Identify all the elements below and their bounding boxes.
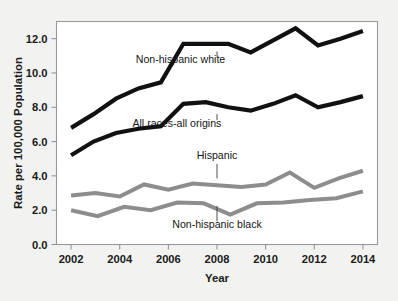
figure-container: 0.02.04.06.08.010.012.0 2002200420062008… bbox=[0, 0, 398, 301]
x-axis-tick-labels: 2002200420062008201020122014 bbox=[59, 253, 376, 265]
chart-canvas: 0.02.04.06.08.010.012.0 2002200420062008… bbox=[0, 0, 398, 301]
series-annotation-label: Hispanic bbox=[197, 149, 238, 161]
x-tick-label: 2012 bbox=[302, 253, 327, 265]
y-tick-label: 0.0 bbox=[32, 239, 48, 251]
y-tick-label: 12.0 bbox=[26, 33, 48, 45]
x-tick-label: 2002 bbox=[59, 253, 84, 265]
series-annotation-label: Non-hispanic white bbox=[136, 53, 226, 65]
x-axis-title: Year bbox=[205, 272, 230, 284]
y-axis-tick-marks bbox=[52, 39, 57, 245]
x-tick-label: 2014 bbox=[350, 253, 376, 265]
y-tick-label: 10.0 bbox=[26, 67, 48, 79]
x-axis-tick-marks bbox=[71, 245, 363, 250]
series-annotation-label: All races-all origins bbox=[132, 117, 221, 129]
y-tick-label: 6.0 bbox=[32, 136, 48, 148]
line-chart: 0.02.04.06.08.010.012.0 2002200420062008… bbox=[0, 0, 398, 301]
x-tick-label: 2010 bbox=[253, 253, 278, 265]
x-tick-label: 2004 bbox=[107, 253, 133, 265]
y-tick-label: 4.0 bbox=[32, 170, 48, 182]
x-tick-label: 2008 bbox=[205, 253, 230, 265]
y-tick-label: 8.0 bbox=[32, 101, 48, 113]
x-tick-label: 2006 bbox=[156, 253, 181, 265]
y-tick-label: 2.0 bbox=[32, 204, 48, 216]
y-axis-title: Rate per 100,000 Population bbox=[12, 57, 24, 209]
y-axis-tick-labels: 0.02.04.06.08.010.012.0 bbox=[26, 33, 48, 251]
